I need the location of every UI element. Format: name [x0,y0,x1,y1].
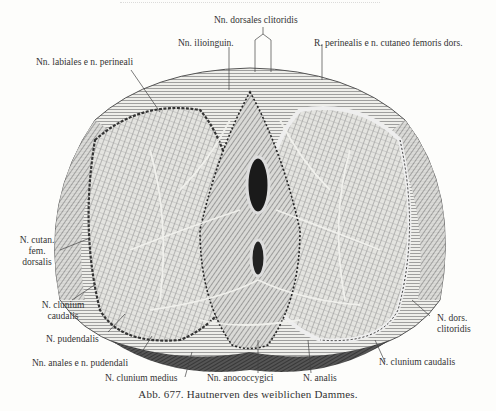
label-nn-dorsales-clitoridis: Nn. dorsales clitoridis [214,15,298,26]
label-n-clunium-caudalis-right: N. clunium caudalis [379,357,455,368]
anus [251,240,265,276]
label-n-dors-clitoridis-right: N. dors. clitoridis [437,313,471,335]
label-nn-labiales: Nn. labiales e n. perineali [36,57,133,68]
label-nn-anales: Nn. anales e n. pudendali [32,358,128,369]
label-nn-ilioinguin: Nn. ilioinguin. [178,38,234,49]
label-nn-anococcygici: Nn. anococcygici [207,373,273,384]
label-n-clunium-caudalis-left: N. clunium caudalis [36,300,90,322]
label-n-cutan-fem-dorsalis: N. cutan. fem. dorsalis [14,235,60,268]
label-n-pudendalis: N. pudendalis [46,334,99,345]
label-r-perinealis: R. perinealis e n. cutaneo femoris dors. [314,38,463,49]
vulva [247,157,269,213]
label-n-analis: N. analis [303,373,337,384]
figure-caption: Abb. 677. Hautnerven des weiblichen Damm… [0,388,496,400]
label-n-clunium-medius: N. clunium medius [105,373,178,384]
